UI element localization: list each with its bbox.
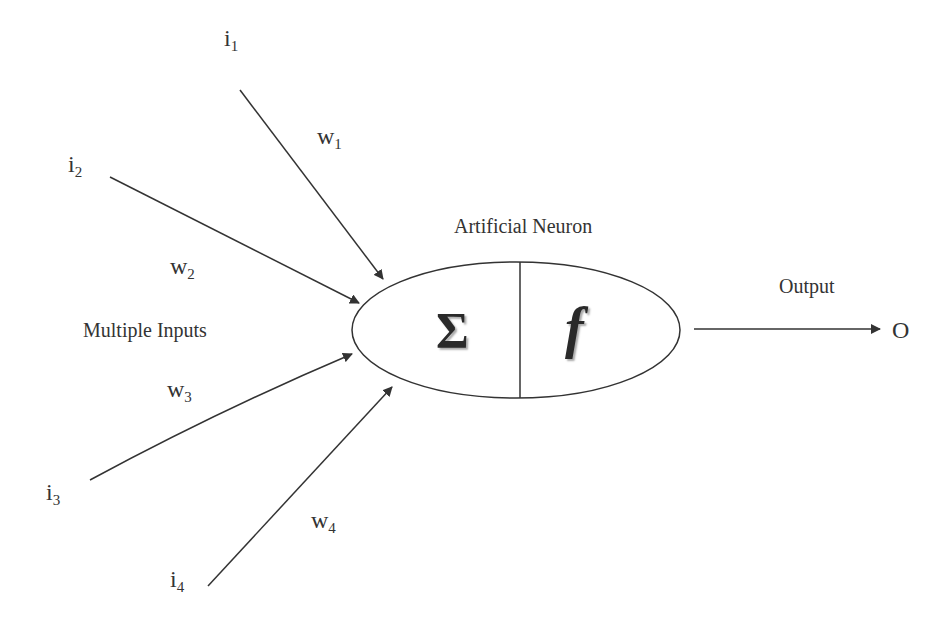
- weight-label-2: w2: [170, 254, 195, 282]
- weight-label-4: w4: [311, 508, 336, 536]
- input-arrow-1: [240, 90, 383, 279]
- summation-symbol: Σ: [436, 305, 469, 355]
- input-arrow-2: [110, 177, 359, 303]
- output-label: Output: [779, 276, 835, 296]
- activation-function-symbol: f: [565, 300, 584, 356]
- neuron-diagram-canvas: [0, 0, 952, 626]
- inputs-label: Multiple Inputs: [83, 320, 207, 340]
- input-label-4: i4: [170, 567, 184, 595]
- input-label-2: i2: [68, 152, 82, 180]
- input-arrow-4: [208, 387, 392, 586]
- neuron-body: [352, 262, 680, 398]
- weight-label-3: w3: [167, 377, 192, 405]
- input-label-3: i3: [46, 480, 60, 508]
- neuron-title: Artificial Neuron: [454, 216, 592, 236]
- input-arrow-3: [90, 354, 352, 480]
- output-symbol: O: [892, 318, 909, 342]
- input-label-1: i1: [224, 26, 238, 54]
- weight-label-1: w1: [317, 124, 342, 152]
